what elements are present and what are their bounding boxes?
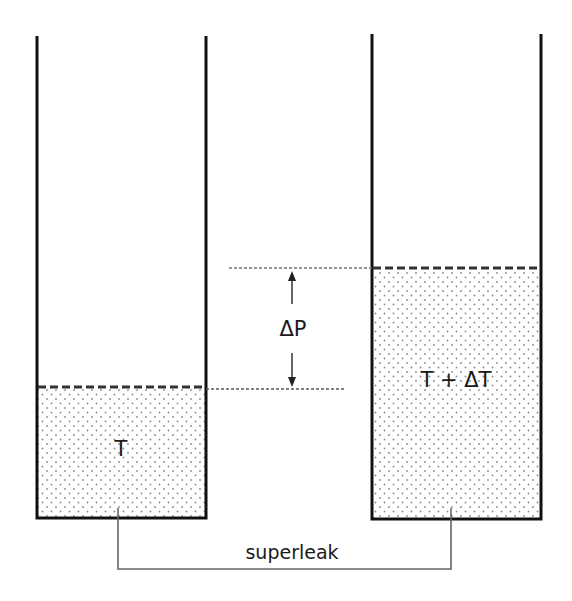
left-temperature-label: T [115,437,128,461]
delta-p-label: ΔP [279,317,306,341]
diagram-canvas [0,0,572,601]
right-liquid [373,270,540,518]
superleak-label: superleak [245,541,338,563]
right-temperature-label: T + ΔT [421,368,492,392]
